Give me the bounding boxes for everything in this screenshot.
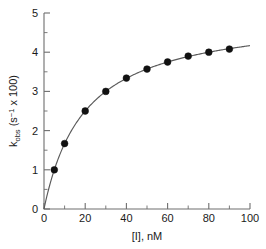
data-point	[144, 66, 151, 73]
y-tick-label: 5	[32, 7, 38, 19]
y-tick-label: 0	[32, 203, 38, 215]
y-title-subscript: obs	[13, 129, 22, 141]
figure-container: 0 20 40 60 80 100 0 1 2 3 4 5 [I], nM ko…	[0, 0, 266, 249]
chart-background	[0, 0, 266, 249]
x-axis-title-text: [I], nM	[132, 230, 163, 242]
data-point	[61, 140, 68, 147]
y-tick-label: 4	[32, 46, 38, 58]
x-tick-label: 100	[241, 212, 259, 224]
x-tick-label: 40	[120, 212, 132, 224]
y-title-unit-open: (s	[7, 117, 19, 130]
x-tick-label: 80	[203, 212, 215, 224]
data-point	[51, 166, 58, 173]
data-point	[164, 59, 171, 66]
data-point	[123, 75, 130, 82]
y-tick-label: 2	[32, 125, 38, 137]
x-tick-label: 0	[41, 212, 47, 224]
x-axis-title: [I], nM	[132, 230, 163, 242]
x-tick-label: 60	[161, 212, 173, 224]
y-tick-label: 3	[32, 85, 38, 97]
data-point	[205, 49, 212, 56]
data-point	[82, 108, 89, 115]
x-tick-label: 20	[79, 212, 91, 224]
y-title-unit-close: x 100)	[7, 75, 19, 109]
data-point	[185, 53, 192, 60]
kobs-vs-inhibitor-scatter-chart: 0 20 40 60 80 100 0 1 2 3 4 5 [I], nM ko…	[0, 0, 266, 249]
data-point	[102, 88, 109, 95]
y-title-exponent: −1	[7, 109, 16, 118]
y-tick-label: 1	[32, 164, 38, 176]
data-point	[226, 46, 233, 53]
